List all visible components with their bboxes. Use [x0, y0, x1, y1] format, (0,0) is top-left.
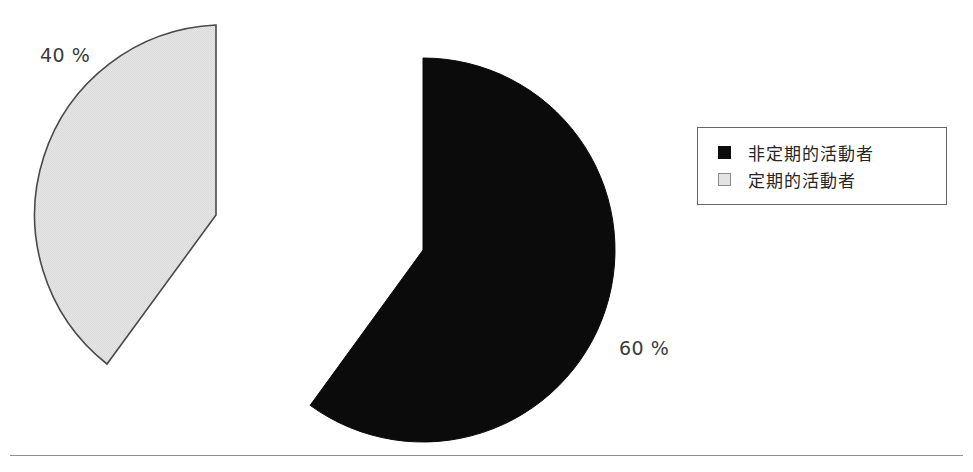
pie-slice-non-regular[interactable]: [310, 58, 615, 442]
pie-slice-regular[interactable]: [35, 25, 216, 364]
pie-chart-canvas: [0, 0, 973, 472]
legend-swatch-dark-icon: [718, 146, 731, 159]
legend-item-non-regular-label: 非定期的活動者: [748, 140, 874, 165]
legend-item-non-regular[interactable]: 非定期的活動者: [718, 139, 946, 166]
footer-divider: [10, 455, 963, 456]
legend-swatch-light-icon: [718, 173, 731, 186]
legend-item-regular[interactable]: 定期的活動者: [718, 166, 946, 193]
gray-slice-percent-label: 40 %: [40, 44, 90, 66]
legend-item-regular-label: 定期的活動者: [748, 167, 856, 192]
chart-legend: 非定期的活動者 定期的活動者: [697, 127, 947, 205]
black-slice-percent-label: 60 %: [619, 337, 669, 359]
pie-chart-figure: 40 % 60 % 非定期的活動者 定期的活動者: [0, 0, 973, 472]
